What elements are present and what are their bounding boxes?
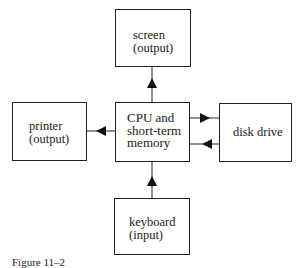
arrow-right-to-disk-icon	[200, 113, 210, 123]
cpu-node: CPU and short-term memory	[115, 102, 190, 162]
cpu-label-line3: memory	[127, 137, 181, 150]
printer-sublabel: (output)	[29, 133, 69, 146]
arrow-left-to-printer-icon	[96, 126, 106, 136]
screen-node: screen (output)	[115, 9, 191, 67]
screen-sublabel: (output)	[133, 42, 173, 55]
arrow-left-to-cpu-icon	[202, 139, 212, 149]
arrow-up-to-screen-icon	[147, 78, 157, 88]
arrow-up-to-cpu-icon	[147, 176, 157, 186]
disk-drive-node: disk drive	[219, 103, 292, 162]
keyboard-sublabel: (input)	[129, 229, 176, 242]
figure-caption: Figure 11–2	[12, 257, 65, 268]
disk-drive-label: disk drive	[233, 126, 283, 139]
keyboard-node: keyboard (input)	[114, 198, 190, 255]
printer-node: printer (output)	[12, 102, 87, 161]
